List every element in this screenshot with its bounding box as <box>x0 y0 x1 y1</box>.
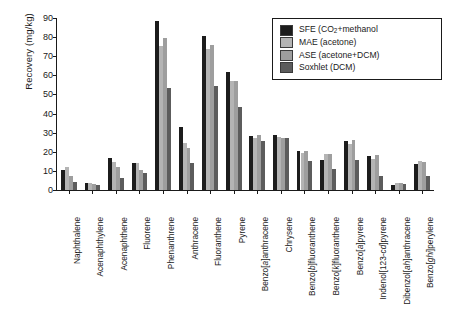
x-tick-mark <box>304 190 305 194</box>
bar <box>96 185 100 190</box>
y-tick-label: 30 <box>43 128 53 138</box>
y-tick-label: 90 <box>43 13 53 23</box>
x-tick-label: Benzo[k]fluoranthene <box>331 217 341 295</box>
x-tick-mark <box>257 190 258 194</box>
bar-group <box>222 18 246 190</box>
legend-item[interactable]: SFE (CO2+methanol <box>280 24 435 37</box>
x-tick-label: Chrysene <box>284 217 294 253</box>
bar <box>332 169 336 190</box>
bar-group <box>81 18 105 190</box>
bar-group <box>128 18 152 190</box>
bar-chart-figure: Recovery (mg/kg) 0102030405060708090 Nap… <box>0 0 453 328</box>
bar <box>214 86 218 190</box>
x-tick-mark <box>116 190 117 194</box>
x-tick-mark <box>187 190 188 194</box>
bar-group <box>104 18 128 190</box>
x-tick-label: Benzo[b]fluoranthene <box>307 217 317 296</box>
bar <box>73 182 77 190</box>
x-tick-mark <box>234 190 235 194</box>
x-tick-mark <box>281 190 282 194</box>
x-tick-mark <box>163 190 164 194</box>
y-tick-mark <box>53 190 57 191</box>
bar <box>143 173 147 190</box>
x-tick-mark <box>92 190 93 194</box>
x-tick-label: Benzo[a]anthracene <box>260 217 270 291</box>
bar <box>167 88 171 190</box>
bar <box>355 160 359 190</box>
x-axis-line <box>56 190 434 191</box>
x-tick-label: Pyrene <box>237 217 247 243</box>
legend-item[interactable]: Soxhlet (DCM) <box>280 62 435 75</box>
chart-legend: SFE (CO2+methanolMAE (acetone)ASE (aceto… <box>272 18 442 80</box>
bar <box>190 163 194 190</box>
x-tick-label: Acenaphthene <box>119 217 129 271</box>
bar-group <box>175 18 199 190</box>
x-tick-label: Dibenzol[ah]anthracene <box>402 217 412 305</box>
bar-group <box>246 18 270 190</box>
y-tick-label: 70 <box>43 51 53 61</box>
y-tick-label: 80 <box>43 32 53 42</box>
legend-label: MAE (acetone) <box>299 38 356 47</box>
bar <box>379 176 383 190</box>
legend-swatch-icon <box>280 25 293 36</box>
bar <box>120 178 124 190</box>
legend-swatch-icon <box>280 37 293 48</box>
x-tick-label: Benzo[ghi]perylene <box>425 217 435 288</box>
bar <box>238 107 242 190</box>
x-tick-mark <box>375 190 376 194</box>
legend-label: Soxhlet (DCM) <box>299 63 355 72</box>
y-axis-title: Recovery (mg/kg) <box>23 0 34 132</box>
y-tick-label: 10 <box>43 166 53 176</box>
legend-label: ASE (acetone+DCM) <box>299 51 379 60</box>
legend-item[interactable]: ASE (acetone+DCM) <box>280 49 435 62</box>
x-tick-label: Phenanthrene <box>166 217 176 269</box>
y-tick-label: 20 <box>43 147 53 157</box>
legend-swatch-icon <box>280 62 293 73</box>
y-tick-label: 60 <box>43 70 53 80</box>
legend-label: SFE (CO2+methanol <box>299 25 378 35</box>
x-tick-mark <box>210 190 211 194</box>
x-tick-mark <box>328 190 329 194</box>
x-tick-mark <box>422 190 423 194</box>
legend-item[interactable]: MAE (acetone) <box>280 37 435 50</box>
bar <box>308 161 312 190</box>
x-tick-label: Acenaphthylene <box>95 217 105 277</box>
x-tick-label: Fluoranthene <box>213 217 223 266</box>
bar-group <box>57 18 81 190</box>
bar <box>426 176 430 190</box>
legend-swatch-icon <box>280 50 293 61</box>
x-tick-label: Fluorene <box>142 217 152 250</box>
x-tick-mark <box>352 190 353 194</box>
x-tick-label: Naphthalene <box>72 217 82 264</box>
bar <box>403 184 407 190</box>
x-tick-label: Indenol[123-cd]pyrene <box>378 217 388 300</box>
x-tick-mark <box>399 190 400 194</box>
bar <box>261 141 265 190</box>
x-tick-mark <box>139 190 140 194</box>
bar <box>285 138 289 190</box>
x-tick-label: Benzo[a]pyrene <box>355 217 365 275</box>
y-tick-label: 40 <box>43 109 53 119</box>
bar-group <box>151 18 175 190</box>
x-tick-label: Anthracene <box>190 217 200 259</box>
x-tick-mark <box>69 190 70 194</box>
y-tick-label: 50 <box>43 89 53 99</box>
bar-group <box>198 18 222 190</box>
